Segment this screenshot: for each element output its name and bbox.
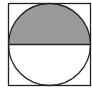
geometry-diagram	[0, 0, 92, 88]
